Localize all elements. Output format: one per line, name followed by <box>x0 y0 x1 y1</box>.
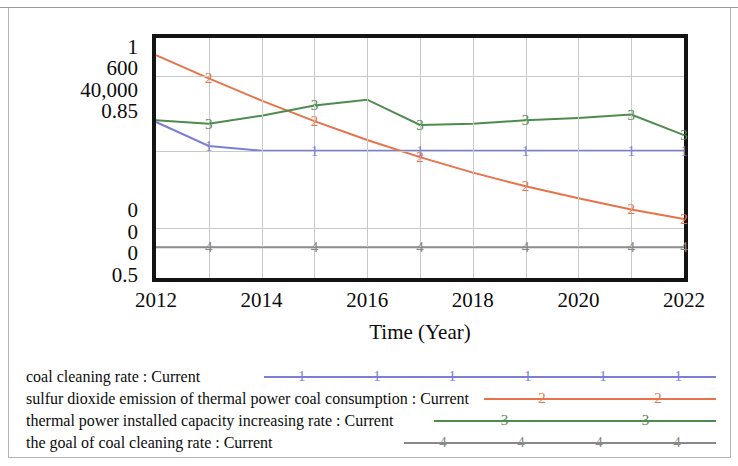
y-axis-bottom-label: 0.5 <box>112 265 138 286</box>
legend-swatch-marker: 1 <box>524 369 532 384</box>
x-axis-title: Time (Year) <box>152 320 688 345</box>
legend-swatch-marker: 4 <box>439 435 447 450</box>
x-axis-tick-label: 2022 <box>663 288 705 313</box>
plot-inner: 111111222222333333444444 <box>156 38 684 278</box>
legend-swatch-marker: 1 <box>298 369 306 384</box>
legend-item[interactable]: coal cleaning rate : Current111111 <box>26 366 716 387</box>
vertical-gridline <box>367 38 368 278</box>
vertical-gridline <box>578 38 579 278</box>
legend-swatch-marker: 1 <box>599 369 607 384</box>
vertical-gridline <box>209 38 210 278</box>
x-axis-tick-label: 2020 <box>557 288 599 313</box>
legend-item-label: sulfur dioxide emission of thermal power… <box>26 388 469 409</box>
vertical-gridline <box>631 38 632 278</box>
chart-legend: coal cleaning rate : Current111111sulfur… <box>26 366 716 458</box>
y-axis-top-labels: 1 600 40,000 0.85 <box>80 37 138 123</box>
legend-swatch-marker: 2 <box>538 391 546 406</box>
y-axis-top-label: 1 <box>80 37 138 58</box>
vertical-gridline <box>473 38 474 278</box>
legend-swatch-line <box>434 420 716 422</box>
horizontal-gridline <box>156 228 684 229</box>
x-axis-tick-label: 2014 <box>241 288 283 313</box>
legend-swatch-marker: 3 <box>501 413 509 428</box>
y-axis-bottom-labels: 0 0 0 0.5 <box>112 200 138 286</box>
legend-swatch-marker: 1 <box>449 369 457 384</box>
x-axis-tick-label: 2016 <box>346 288 388 313</box>
legend-item-label: thermal power installed capacity increas… <box>26 410 393 431</box>
vertical-gridline <box>526 38 527 278</box>
x-axis-tick-label: 2018 <box>452 288 494 313</box>
frame-divider-top <box>0 7 738 8</box>
horizontal-gridline <box>156 151 684 152</box>
y-axis-bottom-label: 0 <box>112 200 138 221</box>
legend-swatch-marker: 4 <box>673 435 681 450</box>
legend-item-swatch: 22 <box>484 388 716 409</box>
vertical-gridline <box>262 38 263 278</box>
vertical-gridline <box>314 38 315 278</box>
y-axis-bottom-label: 0 <box>112 243 138 264</box>
y-axis-top-label: 40,000 <box>80 80 138 101</box>
y-axis-labels: 1 600 40,000 0.85 0 0 0 0.5 <box>10 34 144 282</box>
legend-item-swatch: 4444 <box>404 432 716 453</box>
legend-swatch-line <box>484 398 716 400</box>
horizontal-gridline <box>156 247 684 248</box>
y-axis-top-label: 600 <box>80 58 138 79</box>
legend-item-swatch: 111111 <box>264 366 716 387</box>
legend-item-label: coal cleaning rate : Current <box>26 366 200 387</box>
chart-title-clipped <box>0 0 738 7</box>
x-axis-tick-label: 2012 <box>135 288 177 313</box>
legend-swatch-marker: 1 <box>373 369 381 384</box>
frame-border-left <box>8 8 9 458</box>
legend-swatch-line <box>264 376 716 378</box>
x-axis-ticks: 201220142016201820202022 <box>152 288 688 316</box>
frame-border-right <box>730 8 731 458</box>
legend-swatch-marker: 4 <box>517 435 525 450</box>
y-axis-top-label: 0.85 <box>80 101 138 122</box>
legend-item[interactable]: sulfur dioxide emission of thermal power… <box>26 388 716 409</box>
legend-item-swatch: 33 <box>434 410 716 431</box>
legend-item-label: the goal of coal cleaning rate : Current <box>26 432 273 453</box>
vertical-gridline <box>420 38 421 278</box>
legend-swatch-marker: 3 <box>642 413 650 428</box>
legend-swatch-marker: 4 <box>595 435 603 450</box>
legend-swatch-line <box>404 442 716 444</box>
legend-swatch-marker: 2 <box>654 391 662 406</box>
y-axis-bottom-label: 0 <box>112 222 138 243</box>
legend-item[interactable]: thermal power installed capacity increas… <box>26 410 716 431</box>
plot-area: 111111222222333333444444 <box>152 34 688 282</box>
legend-item[interactable]: the goal of coal cleaning rate : Current… <box>26 432 716 453</box>
legend-swatch-marker: 1 <box>675 369 683 384</box>
horizontal-gridline <box>156 76 684 77</box>
